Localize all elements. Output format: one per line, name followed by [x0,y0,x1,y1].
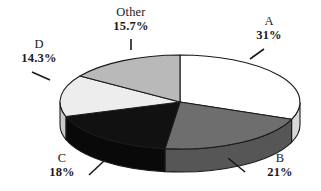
slice-label-a-category: A [245,15,293,29]
pie-chart-figure: Other 15.7% A 31% D 14.3% C 18% B 21% [0,0,321,191]
slice-label-c-category: C [41,152,83,166]
slice-label-other-category: Other [99,6,163,20]
slice-label-d: D 14.3% [8,38,70,65]
slice-label-other-percent: 15.7% [99,20,163,34]
leader-line-a [250,49,264,59]
slice-label-c: C 18% [41,152,83,179]
slice-label-a: A 31% [245,15,293,42]
leader-line-c [89,160,105,175]
slice-label-other: Other 15.7% [99,6,163,33]
slice-label-b: B 21% [258,152,302,179]
slice-label-b-category: B [258,152,302,166]
pie-top-faces [60,55,300,149]
leader-line-d [32,72,50,80]
slice-label-a-percent: 31% [245,29,293,43]
slice-label-c-percent: 18% [41,166,83,180]
slice-label-d-percent: 14.3% [8,52,70,66]
slice-label-b-percent: 21% [258,166,302,180]
slice-label-d-category: D [8,38,70,52]
